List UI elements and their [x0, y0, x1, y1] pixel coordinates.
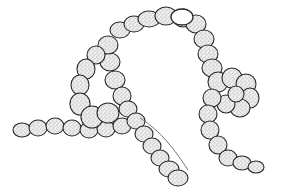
- cell-left-loop: [71, 75, 89, 95]
- cell-left-tail: [63, 120, 81, 136]
- filament-drawing: [0, 0, 282, 195]
- cell-right-coil: [228, 86, 244, 102]
- cell-left-loop: [97, 103, 119, 123]
- cell-right-coil: [199, 105, 217, 123]
- cell-left-tail: [46, 118, 64, 134]
- cell-left-tail: [29, 120, 47, 136]
- cell-right-coil: [203, 89, 221, 107]
- cell-left-loop: [105, 71, 125, 89]
- cell-left-tail: [13, 123, 31, 137]
- cell-right-coil: [248, 161, 264, 173]
- cell-chain: [13, 7, 264, 186]
- cell-center-descending: [168, 170, 188, 186]
- heterocyst: [171, 9, 193, 25]
